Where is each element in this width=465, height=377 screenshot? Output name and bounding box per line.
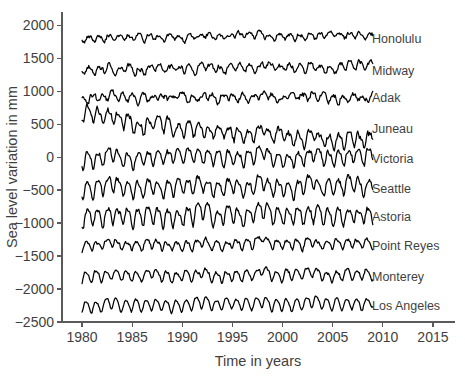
x-tick-label: 2010 bbox=[367, 329, 398, 345]
series-label-point-reyes: Point Reyes bbox=[372, 239, 439, 253]
x-tick-label: 2005 bbox=[317, 329, 348, 345]
x-tick-label: 1990 bbox=[167, 329, 198, 345]
series-line-astoria bbox=[82, 202, 373, 229]
x-tick-label: 1995 bbox=[217, 329, 248, 345]
series-line-adak bbox=[82, 90, 373, 106]
series-line-point-reyes bbox=[82, 237, 373, 253]
series-line-juneau bbox=[82, 103, 373, 150]
series-label-monterey: Monterey bbox=[372, 270, 425, 284]
series-label-victoria: Victoria bbox=[372, 152, 414, 166]
series-label-adak: Adak bbox=[372, 91, 401, 105]
series-line-midway bbox=[82, 60, 373, 77]
x-axis-ticks: 19801985199019952000200520102015 bbox=[66, 322, 448, 345]
series-line-seattle bbox=[82, 175, 373, 201]
y-tick-label: 500 bbox=[31, 116, 55, 132]
series-line-los-angeles bbox=[82, 296, 373, 314]
y-tick-label: 1000 bbox=[23, 83, 54, 99]
series-label-los-angeles: Los Angeles bbox=[372, 299, 440, 313]
y-tick-label: −1500 bbox=[15, 248, 55, 264]
y-tick-label: −1000 bbox=[15, 215, 55, 231]
series-labels-group: HonoluluMidwayAdakJuneauVictoriaSeattleA… bbox=[372, 32, 440, 313]
y-tick-label: −2000 bbox=[15, 281, 55, 297]
y-axis-ticks: 2000150010005000−500−1000−1500−2000−2500 bbox=[15, 17, 62, 330]
x-tick-label: 2015 bbox=[417, 329, 448, 345]
data-series-group bbox=[82, 30, 373, 314]
series-label-juneau: Juneau bbox=[372, 122, 413, 136]
x-tick-label: 2000 bbox=[267, 329, 298, 345]
series-label-seattle: Seattle bbox=[372, 182, 411, 196]
x-tick-label: 1985 bbox=[117, 329, 148, 345]
series-label-astoria: Astoria bbox=[372, 210, 411, 224]
y-tick-label: 2000 bbox=[23, 17, 54, 33]
y-tick-label: 1500 bbox=[23, 50, 54, 66]
series-line-honolulu bbox=[82, 30, 373, 43]
series-line-monterey bbox=[82, 267, 373, 284]
x-tick-label: 1980 bbox=[66, 329, 97, 345]
series-label-honolulu: Honolulu bbox=[372, 32, 421, 46]
series-line-victoria bbox=[82, 146, 373, 171]
y-axis-title: Sea level variation in mm bbox=[4, 86, 20, 248]
y-tick-label: −500 bbox=[22, 182, 54, 198]
sea-level-figure: 2000150010005000−500−1000−1500−2000−2500… bbox=[0, 0, 465, 377]
x-axis-title: Time in years bbox=[215, 353, 301, 369]
chart-canvas: 2000150010005000−500−1000−1500−2000−2500… bbox=[0, 0, 465, 377]
series-label-midway: Midway bbox=[372, 64, 415, 78]
y-tick-label: 0 bbox=[46, 149, 54, 165]
y-tick-label: −2500 bbox=[15, 314, 55, 330]
